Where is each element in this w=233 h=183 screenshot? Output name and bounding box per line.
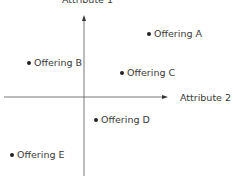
y-axis-arrow-icon xyxy=(82,15,86,21)
point-offering-b xyxy=(27,61,31,65)
x-axis-label: Attribute 2 xyxy=(180,92,231,104)
label-offering-b: Offering B xyxy=(34,57,82,69)
point-offering-d xyxy=(94,118,98,122)
point-offering-c xyxy=(120,71,124,75)
x-axis-arrow-icon xyxy=(162,95,168,99)
positioning-map: Attribute 1 Attribute 2 Offering A Offer… xyxy=(0,0,233,183)
point-offering-a xyxy=(147,32,151,36)
y-axis-label: Attribute 1 xyxy=(62,0,113,6)
label-offering-a: Offering A xyxy=(154,28,202,40)
label-offering-e: Offering E xyxy=(17,149,65,161)
label-offering-c: Offering C xyxy=(127,67,175,79)
point-offering-e xyxy=(10,153,14,157)
label-offering-d: Offering D xyxy=(101,114,150,126)
